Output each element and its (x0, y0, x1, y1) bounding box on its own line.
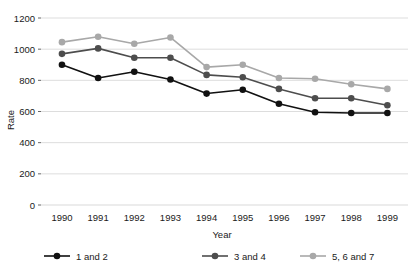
data-point-marker (59, 51, 66, 58)
x-tick-label: 1996 (268, 212, 289, 223)
data-point-marker (59, 61, 66, 68)
x-tick-label: 1997 (305, 212, 326, 223)
x-tick-label: 1994 (196, 212, 217, 223)
y-tick-label: 800 (19, 75, 35, 86)
data-point-marker (203, 90, 210, 97)
legend-label: 3 and 4 (234, 251, 266, 262)
data-point-marker (131, 40, 138, 47)
data-point-marker (384, 86, 391, 93)
data-point-marker (312, 75, 319, 82)
data-point-marker (348, 110, 355, 117)
y-tick-label: 600 (19, 106, 35, 117)
data-point-marker (276, 100, 283, 107)
y-tick-label: 1200 (14, 13, 35, 24)
data-point-marker (95, 33, 102, 40)
data-point-marker (239, 86, 246, 93)
x-tick-label: 1993 (160, 212, 181, 223)
x-tick-label: 1995 (232, 212, 253, 223)
x-tick-label: 1991 (88, 212, 109, 223)
data-point-marker (239, 61, 246, 68)
circle-marker (212, 253, 219, 260)
data-point-marker (239, 74, 246, 81)
data-point-marker (203, 72, 210, 79)
data-point-marker (384, 110, 391, 117)
data-point-marker (384, 102, 391, 109)
x-tick-label: 1998 (341, 212, 362, 223)
x-tick-label: 1990 (51, 212, 72, 223)
x-axis-title: Year (212, 229, 231, 240)
data-point-marker (95, 75, 102, 82)
x-tick-label: 1999 (377, 212, 398, 223)
legend-label: 5, 6 and 7 (332, 251, 374, 262)
circle-marker (310, 253, 317, 260)
chart-canvas: 020040060080010001200 199019911992199319… (0, 0, 415, 266)
data-point-marker (131, 68, 138, 75)
circle-marker (54, 253, 61, 260)
x-tick-label: 1992 (124, 212, 145, 223)
legend-label: 1 and 2 (76, 251, 108, 262)
data-point-marker (276, 86, 283, 93)
data-point-marker (203, 64, 210, 71)
data-point-marker (167, 54, 174, 61)
data-point-marker (348, 95, 355, 102)
data-point-marker (276, 75, 283, 82)
data-point-marker (167, 76, 174, 83)
data-point-marker (312, 95, 319, 102)
data-point-marker (348, 81, 355, 88)
data-point-marker (59, 39, 66, 46)
y-tick-label: 1000 (14, 44, 35, 55)
line-chart: 020040060080010001200 199019911992199319… (0, 0, 415, 266)
data-point-marker (312, 109, 319, 116)
y-tick-label: 400 (19, 137, 35, 148)
y-tick-label: 200 (19, 168, 35, 179)
y-axis-title: Rate (5, 110, 16, 130)
y-tick-label: 0 (30, 200, 35, 211)
data-point-marker (131, 54, 138, 61)
data-point-marker (95, 45, 102, 52)
data-point-marker (167, 34, 174, 41)
